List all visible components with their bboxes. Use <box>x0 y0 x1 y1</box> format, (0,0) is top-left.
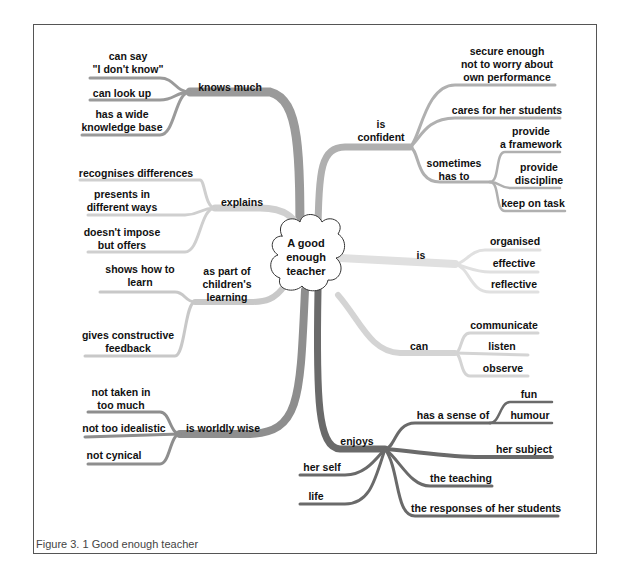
branch-worldly-wise: is worldly wise <box>186 422 260 435</box>
leaf-label: not taken intoo much <box>92 386 151 412</box>
branch-is: is <box>417 249 426 262</box>
leaf-label: effective <box>493 257 536 270</box>
leaf-label: doesn't imposebut offers <box>84 226 161 252</box>
branch-knows-much: knows much <box>198 81 262 94</box>
central-topic-line: A good <box>276 236 336 250</box>
leaf-label: cares for her students <box>452 104 562 117</box>
central-topic-line: teacher <box>276 264 336 278</box>
central-topic-line: enough <box>276 250 336 264</box>
leaf-label: listen <box>488 340 515 353</box>
leaf-label: secure enoughnot to worry aboutown perfo… <box>461 45 553 84</box>
branch-can: can <box>410 340 428 353</box>
leaf-label: not cynical <box>87 449 142 462</box>
branch-childrens-learning: as part ofchildren'slearning <box>202 265 251 304</box>
branch-explains: explains <box>221 196 263 209</box>
leaf-label: the teaching <box>430 472 492 485</box>
leaf-label: her subject <box>496 443 552 456</box>
branch-sometimes-has-to: sometimeshas to <box>427 157 482 183</box>
central-topic: A good enough teacher <box>276 236 336 278</box>
leaf-label: shows how tolearn <box>105 263 174 289</box>
figure-caption: Figure 3. 1 Good enough teacher <box>36 538 198 550</box>
leaf-label: communicate <box>470 319 538 332</box>
leaf-label: presents indifferent ways <box>87 188 158 214</box>
leaf-label: the responses of her students <box>411 502 561 515</box>
branch-enjoys: enjoys <box>340 435 373 448</box>
branch-has-a-sense-of: has a sense of <box>417 409 489 422</box>
leaf-label: recognises differences <box>79 167 193 180</box>
leaf-label: not too idealistic <box>82 422 165 435</box>
branch-is-confident: isconfident <box>357 118 404 144</box>
leaf-label: has a wideknowledge base <box>81 108 162 134</box>
leaf-label: reflective <box>491 278 537 291</box>
leaf-label: her self <box>303 461 340 474</box>
leaf-label: organised <box>490 235 540 248</box>
leaf-label: fun <box>521 388 537 401</box>
leaf-label: keep on task <box>501 197 565 210</box>
leaf-label: can say"I don't know" <box>93 50 164 76</box>
leaf-label: providea framework <box>500 125 562 151</box>
leaf-label: humour <box>510 409 549 422</box>
leaf-label: observe <box>483 362 523 375</box>
leaf-label: gives constructivefeedback <box>82 329 174 355</box>
leaf-label: can look up <box>93 87 151 100</box>
leaf-label: providediscipline <box>515 161 563 187</box>
leaf-label: life <box>308 490 323 503</box>
